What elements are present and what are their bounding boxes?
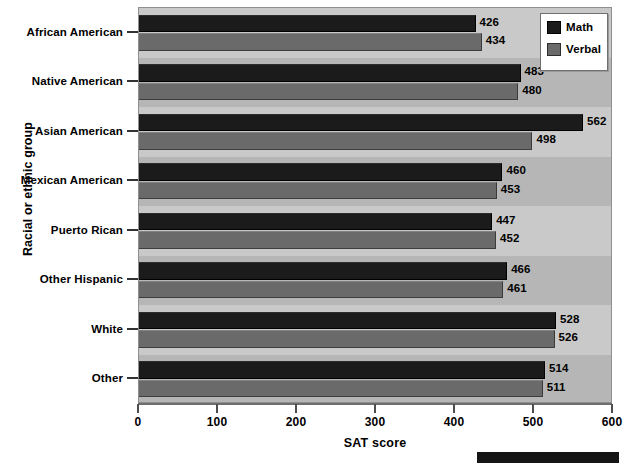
y-axis-title: Racial or ethnic group bbox=[21, 79, 35, 299]
legend-swatch-verbal-icon bbox=[547, 43, 561, 56]
bar-value-label-math: 466 bbox=[511, 264, 531, 276]
bar-value-label-math: 460 bbox=[506, 165, 526, 177]
y-axis-tick-label: Mexican American bbox=[21, 174, 123, 186]
x-axis-tick-label: 300 bbox=[365, 415, 386, 429]
bar-verbal bbox=[139, 132, 532, 150]
bar-verbal bbox=[139, 231, 496, 249]
bar-value-label-verbal: 511 bbox=[547, 382, 566, 394]
bar-math bbox=[139, 312, 556, 330]
bar-math bbox=[139, 64, 521, 82]
bar-value-label-verbal: 453 bbox=[501, 184, 521, 196]
y-axis-tick bbox=[127, 31, 138, 33]
y-axis-tick-label: African American bbox=[27, 26, 123, 38]
bar-math bbox=[139, 15, 476, 33]
bar-value-label-math: 447 bbox=[496, 215, 516, 227]
legend-label: Math bbox=[566, 22, 593, 34]
scan-edge-artifact bbox=[477, 452, 619, 463]
y-axis-tick-label: Other Hispanic bbox=[40, 273, 123, 285]
bar-value-label-math: 562 bbox=[587, 116, 607, 128]
y-axis-tick bbox=[127, 229, 138, 231]
x-axis-tick-label: 100 bbox=[207, 415, 228, 429]
y-axis-tick-label: Puerto Rican bbox=[51, 224, 123, 236]
x-axis-tick bbox=[453, 404, 455, 413]
bar-verbal bbox=[139, 281, 503, 299]
y-axis-tick bbox=[127, 377, 138, 379]
y-axis-tick-label: Native American bbox=[32, 75, 123, 87]
bar-value-label-verbal: 461 bbox=[507, 283, 527, 295]
x-axis-tick-label: 500 bbox=[523, 415, 544, 429]
bar-value-label-math: 426 bbox=[480, 17, 500, 29]
chart-legend: MathVerbal bbox=[540, 13, 608, 71]
x-axis-tick bbox=[137, 404, 139, 413]
bar-verbal bbox=[139, 330, 555, 348]
bar-value-label-verbal: 452 bbox=[500, 233, 520, 245]
x-axis-tick bbox=[611, 404, 613, 413]
bar-value-label-math: 514 bbox=[549, 363, 569, 375]
legend-swatch-math-icon bbox=[547, 21, 561, 34]
bar-value-label-verbal: 434 bbox=[486, 35, 506, 47]
y-axis-tick bbox=[127, 179, 138, 181]
legend-label: Verbal bbox=[566, 44, 601, 56]
x-axis-tick-label: 600 bbox=[602, 415, 623, 429]
y-axis-tick bbox=[127, 328, 138, 330]
x-axis-tick-label: 0 bbox=[135, 415, 142, 429]
x-axis-tick-label: 200 bbox=[286, 415, 307, 429]
y-axis-tick bbox=[127, 278, 138, 280]
x-axis-tick bbox=[295, 404, 297, 413]
chart-figure: Racial or ethnic group African AmericanN… bbox=[0, 0, 637, 469]
x-axis-tick bbox=[532, 404, 534, 413]
bar-math bbox=[139, 114, 583, 132]
bar-verbal bbox=[139, 182, 497, 200]
y-axis-tick-label: Asian American bbox=[35, 125, 123, 137]
y-axis-tick-label: White bbox=[91, 323, 123, 335]
y-axis-tick bbox=[127, 130, 138, 132]
y-axis-tick bbox=[127, 80, 138, 82]
bar-verbal bbox=[139, 33, 482, 51]
x-axis-title: SAT score bbox=[138, 436, 612, 450]
bar-math bbox=[139, 361, 545, 379]
legend-entry-math: Math bbox=[547, 21, 593, 34]
bar-verbal bbox=[139, 83, 518, 101]
bar-math bbox=[139, 262, 507, 280]
bar-math bbox=[139, 163, 502, 181]
x-axis-tick-label: 400 bbox=[444, 415, 465, 429]
x-axis-tick bbox=[216, 404, 218, 413]
bar-value-label-verbal: 480 bbox=[522, 85, 542, 97]
bar-value-label-verbal: 498 bbox=[536, 134, 556, 146]
y-axis-tick-label: Other bbox=[92, 372, 123, 384]
x-axis-tick bbox=[374, 404, 376, 413]
bar-verbal bbox=[139, 380, 543, 398]
bar-value-label-verbal: 526 bbox=[559, 332, 579, 344]
legend-entry-verbal: Verbal bbox=[547, 43, 601, 56]
bar-math bbox=[139, 213, 492, 231]
bar-value-label-math: 528 bbox=[560, 314, 580, 326]
